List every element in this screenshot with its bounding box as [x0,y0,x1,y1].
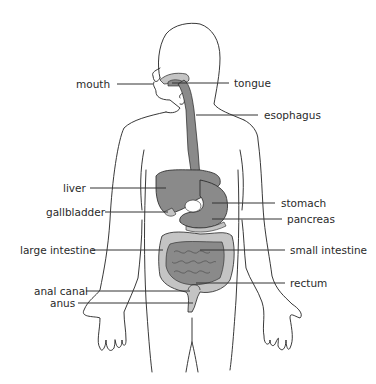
label-tongue: tongue [234,77,271,89]
label-anus: anus [50,297,75,309]
digestive-system-diagram: mouth tongue esophagus liver gallbladder… [0,0,376,384]
label-stomach: stomach [281,197,326,209]
body-illustration [0,0,376,384]
label-small-intestine: small intestine [290,244,367,256]
label-esophagus: esophagus [264,109,321,121]
esophagus-shape [178,80,200,178]
label-gallbladder: gallbladder [46,206,105,218]
label-rectum: rectum [290,277,327,289]
label-large-intestine: large intestine [20,244,96,256]
label-liver: liver [63,182,86,194]
label-pancreas: pancreas [287,213,335,225]
label-mouth: mouth [76,78,110,90]
label-anal-canal: anal canal [34,285,88,297]
